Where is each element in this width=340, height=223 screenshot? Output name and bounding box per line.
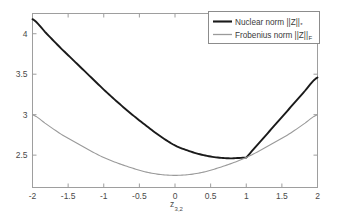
legend-label-frobenius-subscript: F [309, 35, 313, 41]
x-axis-tick-labels: -2-1.5-1-0.500.511.52 [29, 191, 320, 201]
y-tick-label: 4 [23, 29, 28, 39]
x-tick-label: 0.5 [205, 191, 217, 201]
legend-label-nuclear: Nuclear norm ||Z|| [235, 18, 300, 27]
x-tick-label: 1.5 [276, 191, 288, 201]
x-axis-title-text: z [170, 199, 174, 209]
legend-label-frobenius: Frobenius norm ||Z|| [235, 31, 308, 40]
x-tick-label: -1 [100, 191, 108, 201]
y-tick-label: 3.5 [16, 69, 28, 79]
chart-legend[interactable]: Nuclear norm ||Z|| * Frobenius norm ||Z|… [209, 12, 320, 44]
y-tick-label: 2.5 [16, 150, 28, 160]
x-tick-label: -1.5 [61, 191, 76, 201]
x-axis-title: z 3,2 [170, 199, 184, 212]
x-tick-label: -2 [29, 191, 37, 201]
y-axis-tick-labels: 2.533.54 [16, 29, 28, 160]
x-tick-label: 2 [315, 191, 320, 201]
y-tick-label: 3 [23, 110, 28, 120]
figure-canvas: -2-1.5-1-0.500.511.52 2.533.54 z 3,2 Nuc… [0, 0, 340, 223]
chart-plot: -2-1.5-1-0.500.511.52 2.533.54 z 3,2 Nuc… [0, 0, 340, 223]
x-tick-label: -0.5 [132, 191, 147, 201]
x-tick-label: 1 [244, 191, 249, 201]
x-axis-title-subscript: 3,2 [175, 206, 184, 212]
